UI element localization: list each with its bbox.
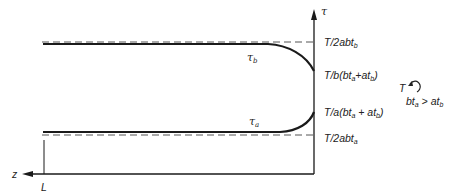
z-axis-arrow-icon [22, 171, 33, 177]
upper-asymptote-value: T/2abtb [324, 37, 358, 49]
condition-inequality: bta > atb [406, 96, 443, 108]
lower-asymptote-value: T/2abta [324, 133, 358, 145]
tau-a-end-value: T/a(bta + atb) [324, 107, 383, 119]
tau-a-curve [43, 112, 314, 132]
shear-stress-diagram [0, 0, 457, 196]
tau-a-label: τa [249, 116, 259, 129]
tau-axis-arrow-icon [311, 9, 317, 20]
z-axis-label: z [12, 169, 17, 180]
length-label: L [41, 182, 47, 193]
tau-axis-label: τ [321, 6, 327, 17]
torque-label: T [399, 83, 405, 94]
tau-b-curve [43, 44, 314, 71]
tau-b-end-value: T/b(bta+atb) [324, 70, 378, 82]
tau-b-label: τb [247, 52, 258, 65]
